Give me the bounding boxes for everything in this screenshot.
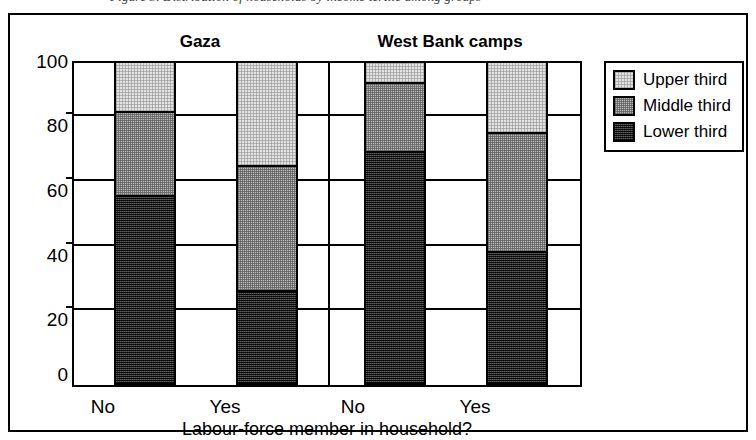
bar-west-bank-no[interactable] (364, 63, 426, 385)
bar-west-bank-yes[interactable] (486, 63, 548, 385)
segment-middle-third[interactable] (236, 165, 298, 292)
panel-title-west-bank: West Bank camps (310, 32, 590, 52)
bar-gaza-yes[interactable] (236, 63, 298, 385)
segment-upper-third[interactable] (236, 61, 298, 167)
segment-upper-third[interactable] (364, 61, 426, 84)
legend-item-upper-third[interactable]: Upper third (613, 67, 727, 93)
y-axis: 100 80 60 40 20 0 (10, 15, 68, 434)
y-tick-label-0: 0 (14, 365, 68, 384)
segment-middle-third[interactable] (114, 111, 176, 197)
x-tick-label-gaza-no: No (53, 396, 153, 418)
segment-lower-third[interactable] (114, 195, 176, 385)
legend-swatch-upper-third-icon (613, 70, 635, 90)
bar-gaza-no[interactable] (114, 63, 176, 385)
y-tick-label-40: 40 (14, 246, 68, 265)
y-tick-label-100: 100 (14, 52, 68, 71)
segment-middle-third[interactable] (364, 82, 426, 153)
figure-frame: Gaza West Bank camps 100 80 60 40 20 0 (8, 13, 748, 432)
x-axis-title: Labour-force member in household? (72, 419, 582, 440)
x-tick-label-wb-no: No (303, 396, 403, 418)
legend: Upper third Middle third Lower third (604, 61, 744, 152)
segment-lower-third[interactable] (236, 290, 298, 385)
legend-label-upper-third: Upper third (643, 70, 727, 90)
legend-item-middle-third[interactable]: Middle third (613, 93, 731, 119)
figure-caption: Figure 5. Distribution of households by … (110, 0, 481, 5)
y-tick-label-20: 20 (14, 310, 68, 329)
segment-lower-third[interactable] (364, 151, 426, 385)
x-tick-label-wb-yes: Yes (425, 396, 525, 418)
segment-lower-third[interactable] (486, 251, 548, 385)
caption-strip: Figure 5. Distribution of households by … (0, 0, 756, 12)
legend-swatch-middle-third-icon (613, 96, 635, 116)
y-tick-label-80: 80 (14, 116, 68, 135)
legend-label-lower-third: Lower third (643, 122, 727, 142)
segment-upper-third[interactable] (114, 61, 176, 113)
panel-divider (328, 63, 330, 385)
segment-upper-third[interactable] (486, 61, 548, 134)
legend-item-lower-third[interactable]: Lower third (613, 119, 727, 145)
x-tick-label-gaza-yes: Yes (175, 396, 275, 418)
y-tick-label-60: 60 (14, 181, 68, 200)
panel-title-gaza: Gaza (110, 32, 290, 52)
legend-label-middle-third: Middle third (643, 96, 731, 116)
legend-swatch-lower-third-icon (613, 122, 635, 142)
segment-middle-third[interactable] (486, 132, 548, 253)
plot-area (72, 61, 582, 387)
